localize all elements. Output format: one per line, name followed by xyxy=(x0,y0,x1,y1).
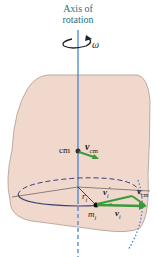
cm-label: cm xyxy=(59,146,70,155)
v-i-prime-label: vi′ xyxy=(103,186,111,199)
diagram-canvas xyxy=(0,0,157,257)
r-label: ri xyxy=(82,192,87,203)
v-i-vector xyxy=(97,205,143,206)
m-label: mi xyxy=(88,210,96,221)
v-i-label: vi xyxy=(115,209,121,220)
omega-label: ω xyxy=(92,40,99,50)
axis-label: Axis of xyxy=(48,4,108,14)
axis-label-2: rotation xyxy=(48,15,108,25)
v-cm-label: vcm xyxy=(85,142,98,155)
v-cm-right-label: vcm xyxy=(137,187,148,198)
